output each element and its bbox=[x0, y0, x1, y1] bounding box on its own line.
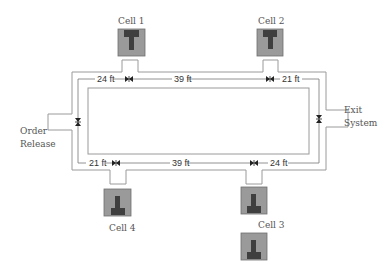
cell-4: Cell 4 bbox=[104, 189, 136, 233]
cell-3: Cell 3 bbox=[241, 187, 285, 260]
bowtie-icon bbox=[250, 160, 258, 166]
distance-top-left: 24 ft bbox=[97, 74, 115, 84]
distance-bottom-right: 24 ft bbox=[270, 158, 288, 168]
distance-top-right: 21 ft bbox=[282, 74, 300, 84]
cell-3-label: Cell 3 bbox=[258, 220, 285, 230]
cell-1: Cell 1 bbox=[118, 16, 145, 56]
bowtie-icon bbox=[75, 118, 81, 126]
bowtie-icon bbox=[125, 76, 133, 82]
inner-loop-wall bbox=[88, 88, 309, 154]
cell-4-label: Cell 4 bbox=[109, 223, 136, 233]
machine-icon bbox=[251, 240, 256, 252]
distance-top-middle: 39 ft bbox=[174, 74, 192, 84]
machine-icon bbox=[115, 196, 120, 208]
order-release-label-line2: Release bbox=[20, 139, 56, 149]
exit-system-label-line2: System bbox=[344, 118, 378, 128]
exit-system-label-line1: Exit bbox=[344, 105, 363, 115]
cell-2-label: Cell 2 bbox=[258, 16, 285, 26]
cell-2: Cell 2 bbox=[257, 16, 285, 56]
distance-bottom-left: 21 ft bbox=[89, 158, 107, 168]
cell-1-label: Cell 1 bbox=[118, 16, 145, 26]
machine-icon bbox=[263, 30, 277, 37]
bowtie-icon bbox=[266, 76, 274, 82]
bowtie-icon bbox=[112, 160, 120, 166]
dimension-lines bbox=[78, 79, 319, 163]
order-release-label-line1: Order bbox=[20, 126, 48, 136]
distance-bottom-middle: 39 ft bbox=[172, 158, 190, 168]
bowtie-icon bbox=[316, 115, 322, 123]
machine-icon bbox=[251, 194, 256, 206]
facility-loop-diagram: 24 ft 39 ft 21 ft 21 ft 39 ft 24 ft Cell… bbox=[0, 0, 389, 275]
flow-markers bbox=[75, 76, 322, 166]
machine-icon bbox=[124, 30, 139, 37]
